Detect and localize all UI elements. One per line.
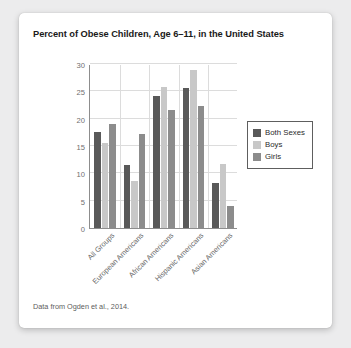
bar: [198, 106, 205, 228]
legend-label: Boys: [265, 141, 282, 149]
bar-group: [149, 65, 179, 228]
chart-legend: Both SexesBoysGirls: [247, 121, 313, 169]
bar: [227, 206, 234, 228]
bar-group: [179, 65, 209, 228]
x-axis-category-labels: All GroupsEuropean AmericansAfrican Amer…: [89, 231, 269, 311]
y-axis-tick-label: 30: [59, 61, 85, 70]
bar-group: [208, 65, 238, 228]
y-axis-tick-label: 15: [59, 143, 85, 152]
chart-card: Percent of Obese Children, Age 6–11, in …: [19, 13, 332, 328]
bar: [94, 132, 101, 228]
x-axis-category-label: European Americans: [91, 231, 146, 286]
legend-swatch-icon: [253, 129, 261, 137]
legend-item: Both Sexes: [253, 127, 305, 139]
legend-swatch-icon: [253, 153, 261, 161]
bar: [220, 164, 227, 228]
bar-group: [90, 65, 120, 228]
bars-layer: [90, 65, 237, 228]
source-note: Data from Ogden et al., 2014.: [33, 302, 129, 311]
y-axis-tick-label: 20: [59, 115, 85, 124]
bar: [212, 183, 219, 228]
y-axis-tick-label: 0: [59, 225, 85, 234]
bar: [124, 165, 131, 228]
bar: [109, 124, 116, 228]
bar: [153, 96, 160, 228]
plot-area: [89, 65, 237, 229]
bar: [190, 70, 197, 228]
bar: [139, 134, 146, 228]
legend-label: Girls: [265, 153, 281, 161]
legend-item: Boys: [253, 139, 305, 151]
legend-label: Both Sexes: [265, 129, 305, 137]
y-axis-tick-label: 10: [59, 170, 85, 179]
bar: [102, 143, 109, 228]
legend-swatch-icon: [253, 141, 261, 149]
y-axis-tick-label: 25: [59, 88, 85, 97]
gridline-horizontal: [90, 63, 237, 64]
bar: [183, 88, 190, 228]
y-axis-tick-label: 5: [59, 197, 85, 206]
y-axis-tick-labels: 051015202530: [57, 65, 85, 229]
bar: [131, 181, 138, 228]
bar-group: [120, 65, 150, 228]
legend-item: Girls: [253, 151, 305, 163]
bar: [168, 110, 175, 228]
bar: [161, 87, 168, 228]
chart-plot-wrapper: 051015202530 All GroupsEuropean American…: [19, 13, 332, 328]
